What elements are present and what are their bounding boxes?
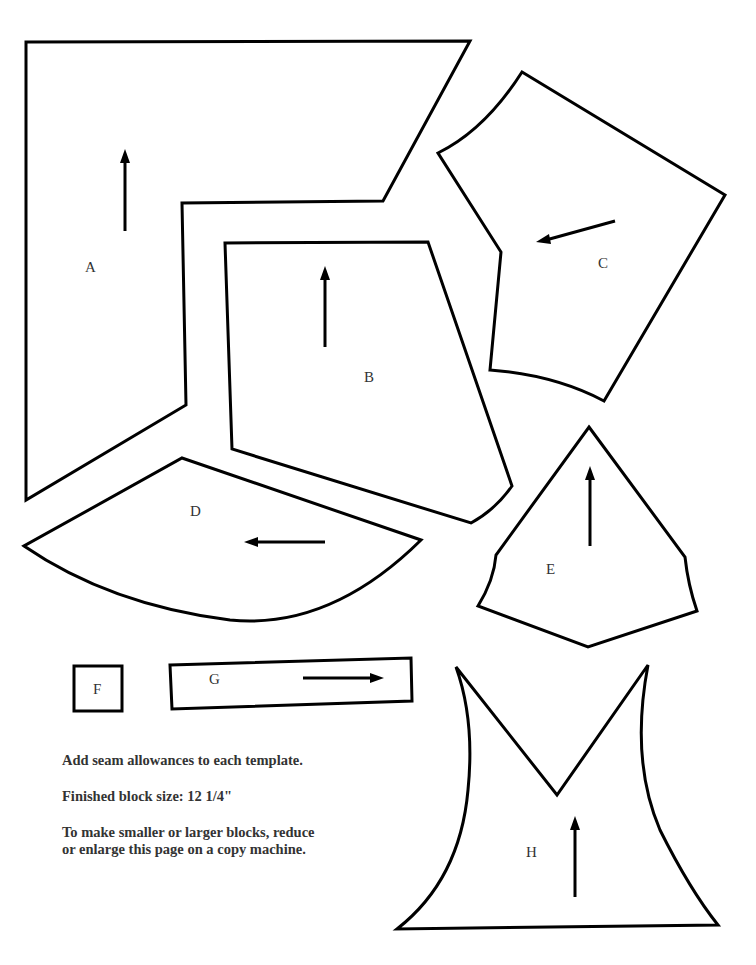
piece-label-e: E	[546, 561, 555, 577]
resize-note-line-1: To make smaller or larger blocks, reduce	[62, 824, 315, 841]
template-piece-b: B	[225, 242, 512, 523]
resize-note: To make smaller or larger blocks, reduce…	[62, 824, 315, 858]
template-piece-g: G	[170, 658, 412, 709]
piece-label-c: C	[598, 255, 608, 271]
template-piece-c: C	[438, 72, 725, 401]
grain-arrow-icon	[546, 221, 615, 240]
instructions: Add seam allowances to each template. Fi…	[62, 752, 315, 858]
piece-label-b: B	[364, 369, 374, 385]
piece-label-g: G	[209, 671, 220, 687]
resize-note-line-2: or enlarge this page on a copy machine.	[62, 841, 315, 858]
template-piece-e: E	[478, 427, 697, 647]
template-piece-a: A	[26, 41, 470, 500]
piece-label-d: D	[190, 503, 201, 519]
piece-label-a: A	[85, 259, 96, 275]
template-piece-h: H	[397, 665, 718, 929]
template-piece-d: D	[24, 458, 421, 621]
piece-label-f: F	[93, 681, 101, 697]
piece-label-h: H	[526, 844, 537, 860]
seam-allowance-note: Add seam allowances to each template.	[62, 752, 315, 769]
block-size-note: Finished block size: 12 1/4"	[62, 788, 315, 805]
template-piece-f: F	[74, 666, 122, 711]
